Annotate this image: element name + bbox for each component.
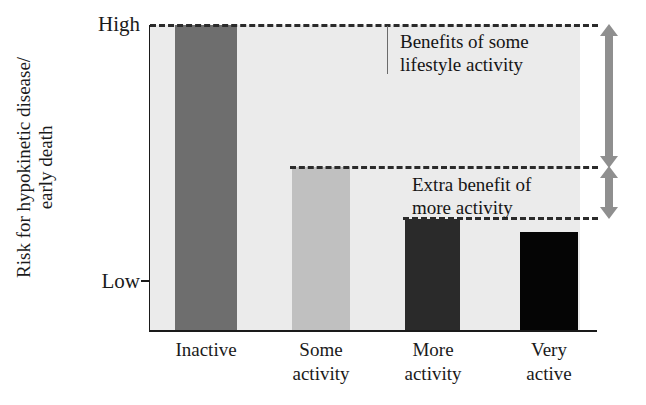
reference-line-high	[150, 24, 598, 27]
y-axis-label-line2: early death	[36, 57, 58, 278]
annotation-extra-line2: more activity	[412, 196, 531, 219]
x-tick-label-some-activity: Some activity	[261, 338, 381, 386]
annotation-extra-line1: Extra benefit of	[412, 173, 531, 196]
bar-inactive	[175, 25, 237, 330]
y-tick-label-high: High	[56, 12, 140, 37]
bar-some-activity	[292, 167, 350, 330]
bar-very-active	[520, 232, 578, 330]
bar-more-activity	[405, 219, 460, 330]
arrow-benefits-of-some-lifestyle-activity	[600, 24, 618, 168]
annotation-leader-line	[387, 26, 388, 74]
arrow-extra-benefit-of-more-activity	[600, 166, 618, 219]
annotation-extra-benefit-of-more-activity: Extra benefit of more activity	[412, 173, 531, 219]
x-tick-more-line1: More	[373, 338, 493, 362]
arrow-shaft-benefits	[605, 35, 613, 156]
x-tick-label-very-active: Very active	[489, 338, 609, 386]
x-tick-inactive-line1: Inactive	[146, 338, 266, 362]
x-tick-very-line1: Very	[489, 338, 609, 362]
annotation-benefits-line2: lifestyle activity	[400, 53, 529, 76]
x-tick-more-line2: activity	[373, 362, 493, 386]
annotation-benefits-line1: Benefits of some	[400, 30, 529, 53]
x-axis-line	[149, 330, 597, 332]
x-tick-some-line2: activity	[261, 362, 381, 386]
x-tick-very-line2: active	[489, 362, 609, 386]
reference-line-some-activity	[290, 166, 598, 169]
x-tick-label-inactive: Inactive	[146, 338, 266, 362]
x-tick-label-more-activity: More activity	[373, 338, 493, 386]
arrow-shaft-extra	[605, 177, 613, 207]
annotation-benefits-of-some-lifestyle-activity: Benefits of some lifestyle activity	[400, 30, 529, 76]
x-tick-some-line1: Some	[261, 338, 381, 362]
y-tick-label-low: Low	[56, 269, 140, 294]
arrow-head-down-extra	[600, 207, 618, 219]
y-axis-label-line1: Risk for hypokinetic disease/	[14, 57, 35, 278]
chart-figure: Risk for hypokinetic disease/ early deat…	[0, 0, 646, 405]
